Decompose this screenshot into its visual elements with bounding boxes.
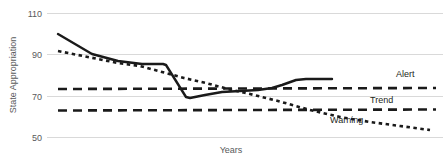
y-axis-title: State Appropriation — [8, 37, 18, 114]
y-tick-label-50: 50 — [32, 133, 42, 143]
x-axis-title: Years — [220, 145, 243, 155]
y-tick-label-90: 90 — [32, 50, 42, 60]
line-chart: 110 90 70 50 State Appropriation Years A… — [0, 0, 443, 162]
series-label-warning: Warning — [330, 115, 363, 125]
chart-container: 110 90 70 50 State Appropriation Years A… — [0, 0, 443, 162]
series-line-warning — [58, 110, 436, 111]
series-label-trend: Trend — [370, 95, 393, 105]
y-tick-label-70: 70 — [32, 92, 42, 102]
gridlines — [47, 14, 443, 138]
series-label-alert: Alert — [396, 69, 415, 79]
y-axis-tick-labels: 110 90 70 50 — [28, 9, 42, 143]
series-line-alert — [58, 88, 436, 89]
y-tick-label-110: 110 — [28, 9, 42, 19]
